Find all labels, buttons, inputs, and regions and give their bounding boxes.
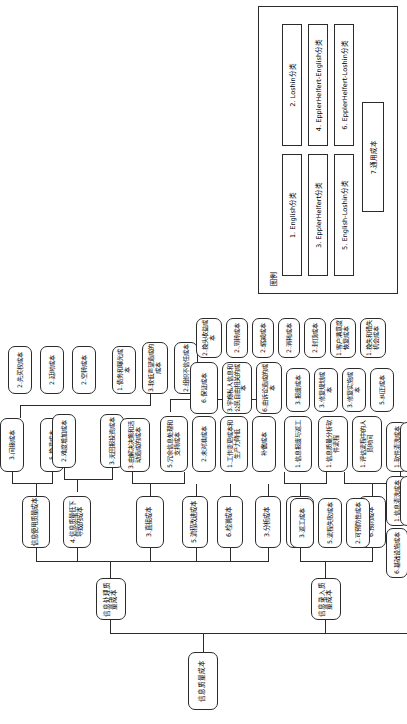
leaf-node[interactable]: 1.债务和曝光成本 bbox=[112, 346, 136, 394]
node-root[interactable]: 信息质量成本 bbox=[188, 652, 218, 710]
legend-item[interactable]: 1. English分类 bbox=[282, 154, 302, 276]
leaf-node[interactable]: 6.由诉讼造成的成本 bbox=[256, 362, 282, 414]
edge bbox=[170, 400, 171, 412]
edge bbox=[36, 561, 268, 562]
leaf-node[interactable]: 2.挽头收益成本 bbox=[196, 318, 222, 358]
leaf-node[interactable]: 补偿成本 bbox=[252, 416, 276, 472]
edge bbox=[36, 484, 37, 496]
edge bbox=[64, 468, 65, 480]
legend-item[interactable]: 3. EpplerHelfert分类 bbox=[308, 154, 328, 276]
node-analysis-cost[interactable]: 3.分析成本 bbox=[255, 496, 281, 548]
leaf-node[interactable]: 3.修复规划成本 bbox=[314, 368, 338, 412]
node-label: 1.信息报废与返工 bbox=[295, 420, 302, 468]
edge bbox=[325, 562, 326, 578]
edge bbox=[132, 483, 184, 484]
node-label: 1.评估流程中的人员时间 bbox=[360, 418, 374, 470]
edge bbox=[20, 405, 150, 406]
leaf-node[interactable]: 5.流程失败成本 bbox=[318, 498, 342, 548]
edge bbox=[112, 468, 113, 480]
edge bbox=[110, 633, 407, 634]
node-label: 1.挽失和错失机会成本 bbox=[366, 320, 380, 356]
legend-item[interactable]: 6. EpplerHelfert-Loshin分类 bbox=[334, 24, 354, 146]
leaf-node[interactable]: 3.间接成本 bbox=[0, 418, 24, 472]
node-label: 6.保证成本 bbox=[201, 373, 208, 403]
legend-item[interactable]: 2. Loshin分类 bbox=[282, 24, 302, 146]
node-label: 3.由解决决策和活动造成的成本 bbox=[128, 420, 142, 470]
node-label: 2.延时成本 bbox=[49, 355, 56, 385]
leaf-node[interactable]: 2.未对准成本 bbox=[192, 416, 216, 472]
node-label: 信息录入质量成本 bbox=[319, 580, 334, 618]
leaf-node[interactable]: 3.报废成本 bbox=[286, 368, 310, 412]
edge bbox=[268, 484, 269, 496]
leaf-node[interactable]: 6.基础设施成本 bbox=[386, 528, 407, 578]
leaf-node[interactable]: 1.信息报废与返工 bbox=[284, 416, 312, 472]
edge bbox=[300, 561, 372, 562]
legend-item[interactable]: 5. English-Loshin分类 bbox=[334, 154, 354, 276]
legend-item-label: 5. English-Loshin分类 bbox=[339, 180, 349, 250]
legend-item[interactable]: 4. EpplerHelfert-English分类 bbox=[308, 24, 328, 146]
edge bbox=[284, 472, 285, 484]
edge bbox=[230, 548, 231, 562]
leaf-node[interactable]: 2.延时成本 bbox=[40, 346, 64, 394]
node-label: 5.流程改进成本 bbox=[191, 501, 198, 543]
node-level1-processing[interactable]: 信息处理质量成本 bbox=[96, 578, 126, 620]
leaf-node[interactable]: 2.缩减成本 bbox=[252, 318, 274, 358]
legend-item-label: 3. EpplerHelfert分类 bbox=[313, 182, 323, 248]
edge bbox=[325, 620, 326, 634]
leaf-node[interactable]: 2.可预防性成本 bbox=[346, 498, 370, 548]
edge bbox=[300, 484, 301, 496]
node-label: 2.可预防性成本 bbox=[355, 502, 362, 544]
node-label: 3.分析成本 bbox=[264, 507, 271, 537]
node-process-improve-cost[interactable]: 5.流程改进成本 bbox=[182, 496, 208, 548]
edge bbox=[268, 548, 269, 562]
node-usage-quality-cost[interactable]: 信息使用质量成本 bbox=[22, 496, 50, 548]
edge bbox=[372, 548, 373, 562]
edge bbox=[36, 548, 37, 562]
legend-item-label: 1. English分类 bbox=[287, 192, 297, 238]
node-label: 信息处理质量成本 bbox=[104, 580, 119, 618]
leaf-node[interactable]: 3.较低声望造成的成本 bbox=[142, 342, 168, 394]
node-label: 5.纠正成本 bbox=[379, 375, 386, 405]
node-label: 2.缩减成本 bbox=[260, 323, 267, 353]
node-level1-entry[interactable]: 信息录入质量成本 bbox=[311, 578, 341, 620]
leaf-node[interactable]: 3.修复实施成本 bbox=[342, 368, 366, 412]
leaf-node[interactable]: 1.工作变更成本和生产力降低 bbox=[220, 416, 248, 472]
diagram-canvas: 信息质量成本 信息处理质量成本 信息录入质量成本 信息使用质量成本 4.信息质量… bbox=[0, 0, 407, 724]
leaf-node[interactable]: 1.评估流程中的人员时间 bbox=[352, 416, 382, 472]
leaf-node[interactable]: 2.消耗成本 bbox=[278, 318, 300, 358]
leaf-node[interactable]: 3.宇瘾私人信息和公民自由相关的成本 bbox=[222, 362, 252, 414]
leaf-node[interactable]: 3.由解决决策和活动造成的成本 bbox=[120, 418, 150, 472]
node-label: 信息使用质量成本 bbox=[32, 498, 39, 546]
node-label: 3.报废成本 bbox=[295, 375, 302, 405]
node-label: 3.宇瘾私人信息和公民自由相关的成本 bbox=[227, 364, 248, 412]
edge bbox=[300, 548, 301, 562]
edge bbox=[132, 472, 133, 484]
node-label: 1.信息质量分析软件流程 bbox=[326, 418, 340, 470]
leaf-node[interactable]: 1.客户满意度恢复成本 bbox=[330, 318, 356, 358]
node-low-quality-cost[interactable]: 4.信息质量低下导致的成本 bbox=[63, 496, 91, 548]
leaf-node[interactable]: 1.不可修补成本 bbox=[400, 422, 407, 472]
leaf-node[interactable]: 6.保证成本 bbox=[190, 362, 218, 414]
node-detection-cost[interactable]: 6.检测成本 bbox=[217, 496, 243, 548]
leaf-node[interactable]: 1.信息质量分析软件流程 bbox=[318, 416, 348, 472]
leaf-node[interactable]: 3.返工成本 bbox=[290, 498, 314, 548]
leaf-node[interactable]: 1.挽失和错失机会成本 bbox=[360, 318, 386, 358]
edge bbox=[150, 394, 151, 406]
leaf-node[interactable]: 2.周转成本 bbox=[226, 318, 248, 358]
leaf-node[interactable]: 2.先买权成本 bbox=[8, 346, 32, 394]
edge bbox=[230, 484, 231, 496]
node-label: 3.无回报投资成本 bbox=[109, 417, 116, 465]
node-label: 1.债务和曝光成本 bbox=[117, 348, 131, 392]
legend-item[interactable]: 7.通用成本 bbox=[362, 102, 384, 212]
leaf-node[interactable]: 5.冗余信息处理和支持成本 bbox=[160, 416, 188, 472]
edge bbox=[326, 472, 327, 484]
leaf-node[interactable]: 2.难度增加成本 bbox=[52, 414, 76, 468]
node-label: 2.封顶成本 bbox=[312, 323, 319, 353]
node-label: 2.未对准成本 bbox=[201, 426, 208, 462]
leaf-node[interactable]: 2.空转成本 bbox=[72, 346, 96, 394]
leaf-node[interactable]: 5.纠正成本 bbox=[370, 368, 394, 412]
node-direct-cost[interactable]: 3.直接成本 bbox=[136, 496, 164, 548]
node-label: 3.修复实施成本 bbox=[347, 370, 361, 410]
leaf-node[interactable]: 2.封顶成本 bbox=[304, 318, 326, 358]
leaf-node[interactable]: 2.回溯成本 bbox=[400, 476, 407, 526]
